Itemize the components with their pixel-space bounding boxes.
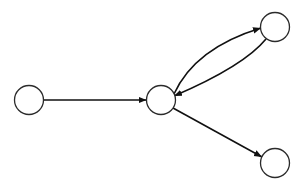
node-n1[interactable] <box>147 86 176 115</box>
nodes <box>15 13 290 178</box>
node-n2[interactable] <box>261 13 290 42</box>
edge-n1-to-n3[interactable] <box>173 108 262 157</box>
edge-n2-to-n1[interactable] <box>174 39 266 96</box>
graph-canvas <box>0 0 303 188</box>
node-n0[interactable] <box>15 86 44 115</box>
edge-n1-to-n2[interactable] <box>174 28 261 94</box>
node-n3[interactable] <box>261 149 290 178</box>
